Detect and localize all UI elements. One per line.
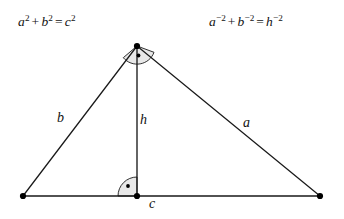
foot-right-angle-dot <box>126 184 130 188</box>
side-label-h: h <box>140 113 147 127</box>
vertex-bottom-left-dot <box>20 193 26 199</box>
side-label-a: a <box>243 116 250 130</box>
side-label-c: c <box>149 197 155 211</box>
apex-right-angle-dot <box>137 54 141 58</box>
reciprocal-equals-sign: = <box>254 14 266 29</box>
side-a-line <box>137 46 320 196</box>
reciprocal-term3-exponent: −2 <box>273 13 283 23</box>
reciprocal-term2-exponent: −2 <box>245 13 255 23</box>
reciprocal-plus-sign: + <box>226 14 238 29</box>
reciprocal-term1-exponent: −2 <box>216 13 226 23</box>
reciprocal-term1-base: a <box>209 14 216 29</box>
pythagorean-term3-exponent: 2 <box>71 13 76 23</box>
formula-pythagorean: a2+b2=c2 <box>18 14 76 30</box>
vertex-bottom-right-dot <box>317 193 323 199</box>
pythagorean-plus-sign: + <box>30 14 42 29</box>
reciprocal-term2-base: b <box>238 14 245 29</box>
diagram-page: a2+b2=c2 a−2+b−2=h−2 b h a c <box>0 0 344 219</box>
vertex-altitude-foot-dot <box>134 193 140 199</box>
formula-reciprocal: a−2+b−2=h−2 <box>209 14 283 30</box>
pythagorean-term1-exponent: 2 <box>25 13 30 23</box>
pythagorean-term1-base: a <box>18 14 25 29</box>
vertex-apex-dot <box>134 43 140 49</box>
side-label-b: b <box>57 111 64 125</box>
pythagorean-equals-sign: = <box>53 14 65 29</box>
reciprocal-term3-base: h <box>266 14 273 29</box>
side-b-line <box>23 46 137 196</box>
triangle-figure <box>0 0 344 219</box>
